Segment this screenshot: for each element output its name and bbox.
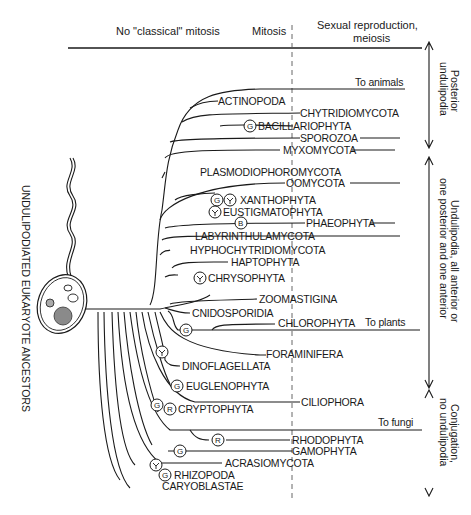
taxon-cnidosporidia: CNIDOSPORIDIA <box>192 307 274 319</box>
conjugation-label-2: no undulipodia <box>438 398 450 466</box>
taxon-sporozoa: SPOROZOA <box>300 132 358 144</box>
taxon-haptophyta: HAPTOPHYTA <box>231 256 299 268</box>
g-marker-icon: G <box>244 120 256 132</box>
taxon-xanthophyta: XANTHOPHYTA <box>240 194 316 206</box>
g-marker-icon: G <box>151 399 163 411</box>
tree-branches <box>86 89 422 488</box>
r-marker-icon: R <box>164 403 176 415</box>
g-marker-icon: G <box>174 445 186 457</box>
svg-text:G: G <box>177 447 183 456</box>
phylogeny-diagram: No "classical" mitosis Mitosis Sexual re… <box>0 0 471 515</box>
g-marker-icon: G <box>171 380 183 392</box>
svg-text:G: G <box>214 196 220 205</box>
svg-text:B: B <box>238 219 243 228</box>
posterior-label-2: undulipodia <box>438 62 450 116</box>
taxon-myxomycota: MYXOMYCOTA <box>283 144 356 156</box>
taxon-foraminifera: FORAMINIFERA <box>266 348 343 360</box>
taxon-chrysophyta: CHRYSOPHYTA <box>208 272 285 284</box>
taxon-phaeophyta: PHAEOPHYTA <box>306 217 375 229</box>
y-marker-icon <box>150 459 162 471</box>
taxon-actinopoda: ACTINOPODA <box>218 95 286 107</box>
y-marker-icon <box>224 194 236 206</box>
svg-text:G: G <box>174 382 180 391</box>
anterior-label-2: one posterior and one anterior <box>438 178 450 319</box>
svg-text:G: G <box>183 326 189 335</box>
header-meiosis: meiosis <box>353 32 391 44</box>
svg-text:G: G <box>247 122 253 131</box>
svg-text:G: G <box>154 401 160 410</box>
ancestor-cell-icon <box>29 158 95 340</box>
taxon-dinoflagellata: DINOFLAGELLATA <box>182 360 271 372</box>
header-no-classical-mitosis: No "classical" mitosis <box>116 25 220 37</box>
taxon-bacillariophyta: BACILLARIOPHYTA <box>258 120 351 132</box>
ancestors-label: UNDULIPODIATED EUKARYOTE ANCESTORS <box>20 185 32 412</box>
taxon-ciliophora: CILIOPHORA <box>301 396 364 408</box>
taxon-chytridiomycota: CHYTRIDIOMYCOTA <box>300 107 399 119</box>
g-marker-icon: G <box>211 194 223 206</box>
taxon-zoomastigina: ZOOMASTIGINA <box>259 293 337 305</box>
svg-text:G: G <box>162 471 168 480</box>
y-marker-icon <box>209 206 221 218</box>
taxon-cryptophyta: CRYPTOPHYTA <box>178 403 254 415</box>
g-marker-icon: G <box>180 324 192 336</box>
taxon-oomycota: OOMYCOTA <box>286 177 345 189</box>
taxon-acrasiomycota: ACRASIOMYCOTA <box>225 457 314 469</box>
svg-text:R: R <box>167 405 173 414</box>
header-mitosis: Mitosis <box>252 25 287 37</box>
side-annotations: Posterior undulipodia Undulipodia, all a… <box>425 42 461 496</box>
b-marker-icon: B <box>235 217 247 229</box>
taxon-euglenophyta: EUGLENOPHYTA <box>186 380 269 392</box>
header-sexual-reproduction: Sexual reproduction, <box>317 19 418 31</box>
y-marker-icon <box>156 346 168 358</box>
y-marker-icon <box>194 272 206 284</box>
taxon-caryoblastae: CARYOBLASTAE <box>162 480 243 492</box>
to-fungi-label: To fungi <box>378 416 413 428</box>
to-plants-label: To plants <box>365 316 405 328</box>
to-animals-label: To animals <box>355 76 403 88</box>
r-marker-icon: R <box>212 434 224 446</box>
taxon-labyrinthulamycota: LABYRINTHULAMYCOTA <box>195 230 315 242</box>
svg-text:R: R <box>215 436 221 445</box>
taxon-gamophyta: GAMOPHYTA <box>292 445 357 457</box>
taxon-chlorophyta: CHLOROPHYTA <box>278 317 355 329</box>
taxon-hyphochytridiomycota: HYPHOCHYTRIDIOMYCOTA <box>190 244 325 256</box>
taxon-labels: ACTINOPODA CHYTRIDIOMYCOTA BACILLARIOPHY… <box>162 95 399 492</box>
